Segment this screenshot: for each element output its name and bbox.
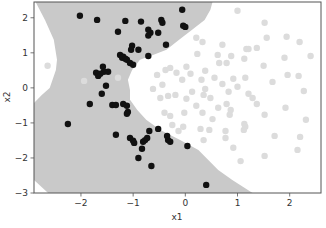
y-tick-label: −1 bbox=[15, 118, 28, 128]
point-class1-7 bbox=[179, 7, 185, 13]
point-class1-31 bbox=[105, 69, 111, 75]
point-class0-2 bbox=[264, 35, 270, 41]
point-class0-28 bbox=[198, 77, 204, 83]
point-class0-15 bbox=[223, 60, 229, 66]
point-class1-34 bbox=[87, 101, 93, 107]
point-class0-76 bbox=[261, 112, 267, 118]
point-class0-65 bbox=[222, 135, 228, 141]
point-class1-9 bbox=[182, 24, 188, 30]
point-class0-49 bbox=[207, 95, 213, 101]
point-class1-15 bbox=[128, 47, 134, 53]
point-class0-42 bbox=[150, 86, 156, 92]
point-class0-53 bbox=[227, 112, 233, 118]
point-class0-73 bbox=[200, 137, 206, 143]
y-tick-label: 0 bbox=[22, 83, 28, 93]
point-class1-4 bbox=[155, 30, 161, 36]
point-class0-67 bbox=[249, 95, 255, 101]
point-class1-23 bbox=[145, 53, 151, 59]
point-class0-43 bbox=[157, 95, 163, 101]
point-class0-0 bbox=[234, 8, 240, 14]
point-class0-80 bbox=[294, 147, 300, 153]
point-class0-66 bbox=[230, 145, 236, 151]
x-tick-label: 0 bbox=[182, 198, 188, 208]
x-tick-label: 1 bbox=[235, 198, 241, 208]
point-class0-13 bbox=[194, 51, 200, 57]
point-class0-81 bbox=[261, 153, 267, 159]
point-class0-82 bbox=[44, 63, 50, 69]
point-class0-35 bbox=[187, 71, 193, 77]
point-class0-11 bbox=[193, 35, 199, 41]
point-class0-21 bbox=[295, 73, 301, 79]
point-class0-18 bbox=[281, 55, 287, 61]
point-class0-74 bbox=[206, 127, 212, 133]
point-class0-8 bbox=[245, 46, 251, 52]
point-class0-26 bbox=[211, 75, 217, 81]
point-class1-13 bbox=[115, 29, 121, 35]
point-class0-31 bbox=[234, 84, 240, 90]
point-class0-19 bbox=[307, 53, 313, 59]
point-class0-27 bbox=[202, 68, 208, 74]
point-class0-40 bbox=[154, 72, 160, 78]
x-axis-label: x1 bbox=[171, 212, 182, 222]
point-class0-46 bbox=[183, 96, 189, 102]
y-tick-label: 2 bbox=[22, 13, 28, 23]
point-class1-40 bbox=[124, 111, 130, 117]
point-class1-48 bbox=[146, 128, 152, 134]
point-class0-38 bbox=[173, 70, 179, 76]
point-class1-58 bbox=[65, 121, 71, 127]
y-tick-label: −2 bbox=[15, 153, 28, 163]
point-class0-84 bbox=[115, 75, 121, 81]
point-class0-68 bbox=[254, 101, 260, 107]
point-class0-55 bbox=[199, 110, 205, 116]
point-class0-7 bbox=[228, 53, 234, 59]
point-class0-41 bbox=[159, 82, 165, 88]
point-class0-59 bbox=[167, 113, 173, 119]
point-class0-12 bbox=[199, 39, 205, 45]
point-class0-70 bbox=[303, 117, 309, 123]
point-class0-58 bbox=[181, 110, 187, 116]
y-tick-label: −3 bbox=[15, 188, 28, 198]
point-class0-3 bbox=[283, 34, 289, 40]
x-tick-label: 2 bbox=[287, 198, 293, 208]
point-class0-33 bbox=[301, 88, 307, 94]
point-class1-41 bbox=[113, 132, 119, 138]
point-class1-38 bbox=[124, 103, 130, 109]
point-class0-5 bbox=[219, 42, 225, 48]
point-class0-37 bbox=[167, 65, 173, 71]
point-class0-61 bbox=[197, 126, 203, 132]
point-class0-50 bbox=[215, 105, 221, 111]
point-class0-29 bbox=[202, 86, 208, 92]
point-class0-75 bbox=[237, 158, 243, 164]
point-class1-57 bbox=[203, 182, 209, 188]
point-class1-24 bbox=[130, 61, 136, 67]
x-tick-label: −2 bbox=[74, 198, 87, 208]
point-class0-71 bbox=[169, 122, 175, 128]
point-class0-30 bbox=[225, 89, 231, 95]
point-class0-1 bbox=[261, 20, 267, 26]
point-class0-77 bbox=[241, 121, 247, 127]
point-class0-10 bbox=[215, 52, 221, 58]
point-class0-44 bbox=[165, 93, 171, 99]
point-class0-22 bbox=[269, 79, 275, 85]
point-class0-39 bbox=[179, 77, 185, 83]
point-class1-32 bbox=[103, 83, 109, 89]
scatter-chart: −2−1012 −3−2−1012 x1 x2 bbox=[0, 0, 326, 228]
point-class0-47 bbox=[189, 89, 195, 95]
point-class1-25 bbox=[163, 42, 169, 48]
point-class1-47 bbox=[144, 135, 150, 141]
y-axis-label: x2 bbox=[2, 91, 12, 102]
point-class0-64 bbox=[222, 128, 228, 134]
point-class0-51 bbox=[223, 101, 229, 107]
point-class0-79 bbox=[271, 133, 277, 139]
point-class1-44 bbox=[131, 140, 137, 146]
point-class0-54 bbox=[193, 103, 199, 109]
point-class0-17 bbox=[260, 63, 266, 69]
point-class1-6 bbox=[159, 20, 165, 26]
point-class0-72 bbox=[180, 124, 186, 130]
point-class0-45 bbox=[172, 92, 178, 98]
point-class0-48 bbox=[200, 92, 206, 98]
point-class0-20 bbox=[284, 72, 290, 78]
point-class1-2 bbox=[122, 18, 128, 24]
point-class1-12 bbox=[145, 32, 151, 38]
x-tick-label: −1 bbox=[127, 198, 140, 208]
